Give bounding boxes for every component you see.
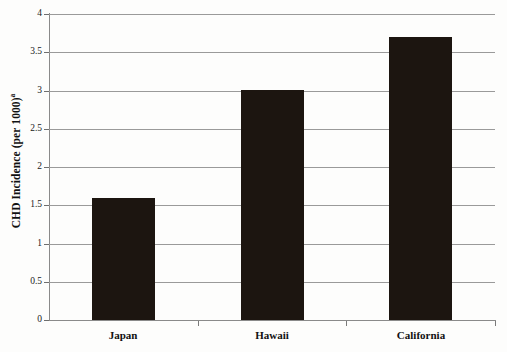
- y-tick-label: 4: [8, 9, 42, 19]
- x-tick-mark: [198, 321, 199, 326]
- bar: [389, 37, 452, 320]
- plot-area: [49, 14, 495, 320]
- y-tick-mark: [44, 14, 49, 15]
- y-tick-label: 0.5: [8, 277, 42, 287]
- gridline: [49, 14, 495, 15]
- x-axis-category-label: California: [361, 330, 481, 341]
- y-tick-mark: [44, 129, 49, 130]
- bar: [241, 90, 304, 320]
- y-tick-mark: [44, 282, 49, 283]
- y-tick-mark: [44, 244, 49, 245]
- y-tick-mark: [44, 205, 49, 206]
- x-axis-end-tick: [495, 321, 496, 326]
- x-axis-category-label: Hawaii: [212, 330, 332, 341]
- y-tick-label: 2: [8, 162, 42, 172]
- y-tick-label: 0: [8, 315, 42, 325]
- bar-chart: CHD Incidence (per 1000)a 00.511.522.533…: [0, 0, 507, 352]
- bar: [92, 198, 155, 320]
- x-axis-category-label: Japan: [63, 330, 183, 341]
- y-tick-mark: [44, 52, 49, 53]
- y-tick-label: 3.5: [8, 47, 42, 57]
- gridline: [49, 320, 495, 321]
- y-tick-label: 1: [8, 239, 42, 249]
- y-tick-label: 2.5: [8, 124, 42, 134]
- y-tick-mark: [44, 167, 49, 168]
- x-tick-mark: [346, 321, 347, 326]
- y-tick-label: 1.5: [8, 200, 42, 210]
- y-tick-mark: [44, 320, 49, 321]
- y-tick-mark: [44, 91, 49, 92]
- y-tick-label: 3: [8, 86, 42, 96]
